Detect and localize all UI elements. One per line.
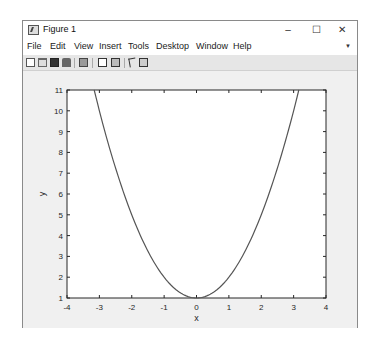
open-file-icon[interactable] — [38, 58, 47, 67]
y-tick-label: 10 — [54, 107, 63, 116]
menu-insert[interactable]: Insert — [99, 41, 122, 51]
x-tick-label: -3 — [96, 303, 104, 312]
dock-figure-icon[interactable]: ▼ — [345, 43, 351, 49]
figure-canvas: -4-3-2-1012341234567891011xy — [23, 71, 357, 328]
minimize-button[interactable]: – — [275, 21, 301, 39]
y-tick-label: 11 — [55, 86, 64, 95]
y-tick-label: 6 — [59, 190, 64, 199]
y-tick-label: 4 — [59, 232, 64, 241]
insert-colorbar-icon[interactable] — [98, 58, 107, 67]
y-tick-label: 9 — [59, 128, 64, 137]
menu-edit[interactable]: Edit — [50, 41, 66, 51]
x-tick-label: 0 — [194, 303, 199, 312]
menu-window[interactable]: Window — [196, 41, 228, 51]
axes[interactable]: -4-3-2-1012341234567891011xy — [23, 71, 357, 328]
x-tick-label: 4 — [324, 303, 329, 312]
plot-browser-icon[interactable] — [139, 58, 148, 67]
save-icon[interactable] — [50, 58, 59, 67]
y-axis-label: y — [37, 191, 47, 196]
menu-file[interactable]: File — [27, 41, 42, 51]
y-tick-label: 7 — [59, 169, 64, 178]
link-plot-icon[interactable] — [79, 58, 88, 67]
menu-view[interactable]: View — [74, 41, 93, 51]
menu-help[interactable]: Help — [233, 41, 252, 51]
toolbar-separator — [74, 58, 75, 68]
menu-tools[interactable]: Tools — [128, 41, 149, 51]
y-tick-label: 1 — [59, 294, 64, 303]
close-button[interactable]: ✕ — [329, 21, 355, 39]
y-tick-label: 2 — [59, 273, 64, 282]
y-tick-label: 5 — [59, 211, 64, 220]
title-bar[interactable]: Figure 1 – ☐ ✕ — [23, 21, 357, 39]
print-icon[interactable] — [62, 58, 71, 67]
x-tick-label: 1 — [227, 303, 232, 312]
x-axis-label: x — [194, 313, 199, 323]
y-tick-label: 3 — [59, 252, 64, 261]
figure-toolbar — [23, 55, 357, 71]
window-title: Figure 1 — [43, 24, 76, 34]
maximize-button[interactable]: ☐ — [303, 21, 329, 39]
y-tick-label: 8 — [59, 148, 64, 157]
x-tick-label: 3 — [291, 303, 296, 312]
plot-area — [67, 90, 326, 298]
x-tick-label: -1 — [161, 303, 169, 312]
new-figure-icon[interactable] — [26, 58, 35, 67]
matlab-figure-icon — [28, 25, 39, 35]
menu-bar: File Edit View Insert Tools Desktop Wind… — [23, 39, 357, 55]
x-tick-label: 2 — [259, 303, 264, 312]
insert-legend-icon[interactable] — [111, 58, 120, 67]
x-tick-label: -2 — [128, 303, 136, 312]
toolbar-separator — [124, 58, 125, 68]
menu-desktop[interactable]: Desktop — [156, 41, 189, 51]
edit-plot-icon[interactable] — [128, 57, 136, 67]
toolbar-separator — [92, 58, 93, 68]
figure-window: Figure 1 – ☐ ✕ File Edit View Insert Too… — [22, 20, 358, 328]
x-tick-label: -4 — [63, 303, 71, 312]
